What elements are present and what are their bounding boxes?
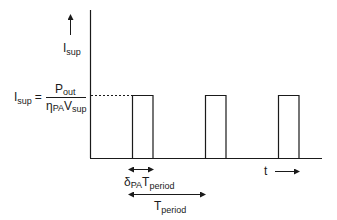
equation-denominator: ηPAVsup: [46, 99, 87, 114]
equation-lhs: Isup=: [14, 90, 42, 106]
period-label: Tperiod: [154, 199, 186, 215]
equation-numerator: Pout: [55, 82, 76, 97]
pulse-train: [133, 96, 300, 159]
waveform-diagram: Isup Isup= Pout ηPAVsup t δPATperiod Tpe…: [0, 0, 337, 220]
x-axis-label: t: [264, 164, 268, 178]
pulse-width-label: δPATperiod: [124, 175, 174, 191]
pulse: [133, 96, 154, 159]
level-equation: Isup= Pout ηPAVsup: [14, 82, 87, 114]
y-axis-label: Isup: [63, 41, 81, 57]
pulse: [279, 96, 300, 159]
pulse: [206, 96, 227, 159]
